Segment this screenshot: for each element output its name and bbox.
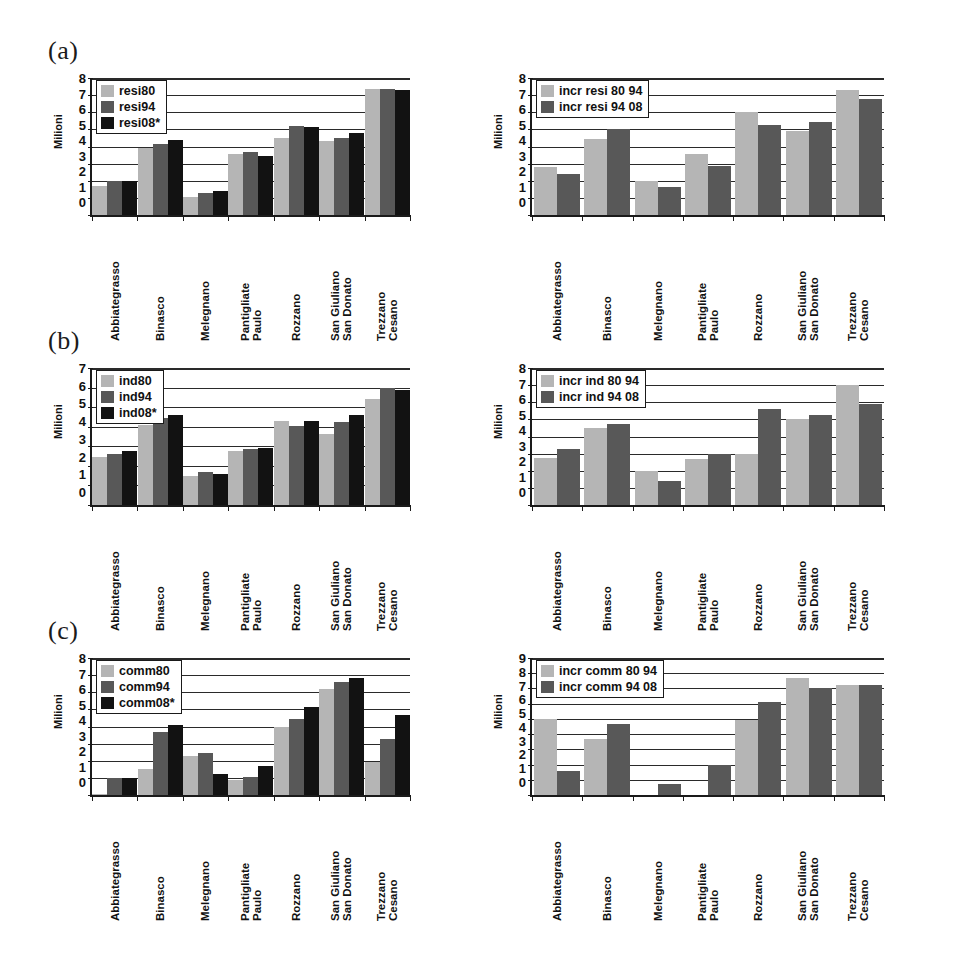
bar [658,784,681,795]
y-tick-label: 5 [510,707,526,720]
bar [92,186,107,215]
x-tick-mark [410,505,411,511]
y-tick-label: 1 [510,181,526,194]
x-axis-label: Binasco [137,803,182,921]
x-axis-ticks [92,505,410,511]
bar [708,454,731,505]
bar [289,426,304,505]
plot-wrapper: 876543210AbbiategrassoBinascoMelegnanoPa… [70,658,408,795]
bar [635,181,658,215]
y-tick-label: 5 [70,119,86,132]
x-tick-mark [183,795,184,801]
y-tick-label: 6 [70,380,86,393]
x-axis-label: San GiulianoSan Donato [319,803,364,921]
x-axis-label: Binasco [582,803,632,921]
y-tick-label: 2 [70,745,86,758]
legend-label: incr resi 80 94 [559,84,642,98]
bar [758,702,781,795]
bar-group [274,78,319,215]
bar [607,424,630,505]
bar [635,471,658,505]
y-axis-title: Milioni [52,86,66,178]
bar-group [183,368,228,505]
bar [809,122,832,215]
legend-swatch [541,681,554,693]
legend-swatch [101,101,114,113]
bar-group [183,658,228,795]
panel-a: (a)Milioni876543210AbbiategrassoBinascoM… [0,28,963,328]
x-tick-mark [92,795,93,801]
y-axis-title: Milioni [492,666,506,758]
x-tick-mark [683,795,684,801]
legend-swatch [541,375,554,387]
bar [153,732,168,795]
x-tick-mark [319,795,320,801]
bar [809,688,832,795]
legend: incr comm 80 94incr comm 94 08 [536,660,664,698]
x-tick-mark [183,215,184,221]
bar [107,181,122,215]
x-tick-mark [733,505,734,511]
y-axis-title: Milioni [52,376,66,468]
legend-swatch [541,85,554,97]
bar [122,778,137,795]
y-tick-label: 0 [510,776,526,789]
bar-group [228,658,273,795]
bar [213,191,228,215]
figure-bar-chart-grid: (a)Milioni876543210AbbiategrassoBinascoM… [0,0,963,966]
bar-group [319,658,364,795]
x-axis-ticks [92,795,410,801]
y-tick-label: 8 [510,362,526,375]
x-axis-ticks [92,215,410,221]
y-tick-label: 5 [70,397,86,410]
bar [365,89,380,215]
legend-item: resi08* [101,116,160,130]
legend-item: incr ind 80 94 [541,374,639,388]
bar [786,419,809,505]
legend-item: ind94 [101,390,157,404]
bar [607,724,630,795]
y-tick-label: 0 [70,196,86,209]
bar [168,725,183,795]
x-tick-mark [783,215,784,221]
bar-group [783,658,833,795]
bar [107,778,122,795]
bar [258,766,273,795]
bar [153,144,168,215]
x-axis-labels: AbbiategrassoBinascoMelegnanoPantigliate… [92,803,410,921]
y-tick-label: 4 [510,424,526,437]
bar [859,99,882,215]
bar-group [319,78,364,215]
x-tick-mark [884,505,885,511]
x-tick-mark [228,505,229,511]
x-tick-mark [532,505,533,511]
x-tick-mark [137,795,138,801]
y-tick-label: 2 [510,455,526,468]
legend-label: incr comm 94 08 [559,680,657,694]
panel-label: (b) [48,326,80,356]
bar [92,457,107,505]
x-tick-mark [532,795,533,801]
bar [258,448,273,505]
bar [274,727,289,796]
bar [228,780,243,795]
bar [658,187,681,215]
x-tick-mark [733,215,734,221]
bar [138,769,153,795]
x-tick-mark [92,505,93,511]
x-tick-mark [783,505,784,511]
bar-group [733,658,783,795]
y-tick-label: 1 [510,762,526,775]
bar [198,193,213,215]
panel-label: (a) [48,36,78,66]
bar [735,454,758,505]
bar-group [183,78,228,215]
y-tick-label: 3 [510,440,526,453]
x-axis-labels: AbbiategrassoBinascoMelegnanoPantigliate… [532,803,884,921]
legend-item: incr ind 94 08 [541,390,639,404]
y-tick-label: 9 [510,652,526,665]
bar [557,174,580,215]
x-axis-label: PantigliatePaulo [683,803,733,921]
x-tick-mark [365,795,366,801]
legend-label: resi80 [119,84,155,98]
